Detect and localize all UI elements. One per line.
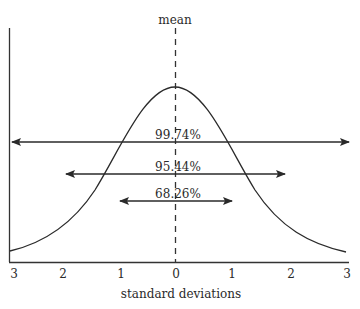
x-axis-title: standard deviations	[121, 288, 241, 300]
pct-2sd-label: 95.44%	[155, 161, 201, 173]
x-tick-label: 1	[117, 268, 125, 280]
chart-canvas	[0, 0, 360, 309]
x-tick-label: 3	[10, 268, 18, 280]
x-tick-label: 0	[172, 268, 180, 280]
pct-3sd-label: 99.74%	[155, 129, 201, 141]
x-tick-label: 1	[228, 268, 236, 280]
x-tick-label: 3	[343, 268, 351, 280]
pct-1sd-label: 68.26%	[155, 188, 201, 200]
mean-label: mean	[158, 14, 191, 26]
x-tick-label: 2	[287, 268, 295, 280]
x-tick-label: 2	[59, 268, 67, 280]
